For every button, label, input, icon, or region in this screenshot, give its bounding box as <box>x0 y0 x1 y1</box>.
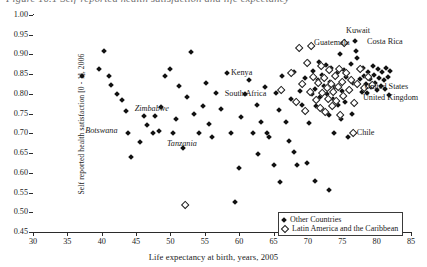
data-point <box>295 44 304 53</box>
data-point <box>201 103 207 109</box>
data-point <box>213 90 219 96</box>
data-point <box>246 77 252 83</box>
x-tick <box>102 232 103 236</box>
data-point <box>236 165 242 171</box>
data-point <box>283 119 289 125</box>
data-point <box>102 48 108 54</box>
data-point <box>232 200 238 206</box>
data-point <box>170 131 176 137</box>
data-point <box>345 134 351 140</box>
legend-row: Other Countries <box>282 215 398 224</box>
y-tick <box>29 74 33 75</box>
data-point <box>349 112 355 118</box>
data-point <box>278 179 284 185</box>
data-point <box>218 106 224 112</box>
x-tick-label: 65 <box>269 238 277 246</box>
data-point <box>370 63 376 69</box>
data-point <box>124 108 130 114</box>
x-tick <box>67 232 68 236</box>
legend-label: Other Countries <box>290 215 341 224</box>
data-point <box>256 151 262 157</box>
data-point <box>291 149 297 155</box>
y-tick-label: 0.90 <box>14 50 28 58</box>
legend: Other CountriesLatin America and the Car… <box>278 212 403 236</box>
y-tick-label: 0.70 <box>14 129 28 137</box>
y-tick <box>29 173 33 174</box>
data-point <box>152 113 158 119</box>
x-tick-label: 60 <box>235 238 243 246</box>
annotation-guatemala: Guatemala <box>314 39 349 47</box>
x-tick <box>136 232 137 236</box>
data-point <box>114 91 120 97</box>
data-point <box>254 102 260 108</box>
data-point <box>120 97 126 103</box>
x-tick-label: 85 <box>407 238 415 246</box>
annotation-chile: Chile <box>357 129 375 137</box>
data-point <box>303 59 312 68</box>
legend-row: Latin America and the Caribbean <box>282 224 398 233</box>
annotation-united-states: United States <box>364 83 408 91</box>
x-tick-label: 70 <box>304 238 312 246</box>
y-tick-label: 0.55 <box>14 188 28 196</box>
data-point <box>206 121 212 127</box>
data-point <box>181 201 190 210</box>
data-point <box>188 50 194 56</box>
y-tick <box>29 94 33 95</box>
x-tick-label: 35 <box>63 238 71 246</box>
data-point <box>348 61 354 67</box>
data-point <box>96 67 102 73</box>
y-tick <box>29 193 33 194</box>
data-point <box>326 187 332 193</box>
y-tick-label: 0.85 <box>14 70 28 78</box>
annotation-zimbabwe: Zimbabwe <box>135 105 169 113</box>
figure-caption: Figure 10.1 Self-reported health satisfa… <box>6 0 421 4</box>
data-point <box>228 131 234 137</box>
y-tick-label: 0.45 <box>14 228 28 236</box>
data-point <box>294 162 300 168</box>
x-tick <box>33 232 34 236</box>
y-tick-label: 0.65 <box>14 149 28 157</box>
data-point <box>137 139 143 145</box>
data-point <box>353 48 359 54</box>
x-tick-label: 50 <box>166 238 174 246</box>
x-tick <box>205 232 206 236</box>
data-point <box>306 120 312 126</box>
x-tick <box>411 232 412 236</box>
data-point <box>337 51 343 57</box>
plot-area: Self reported health satisfaction [0 - 1… <box>33 15 411 232</box>
y-tick-label: 1.00 <box>14 11 28 19</box>
x-tick <box>170 232 171 236</box>
annotation-kuwait: Kuwait <box>346 27 370 35</box>
annotation-south-africa: South Africa <box>225 90 267 98</box>
x-tick-label: 45 <box>132 238 140 246</box>
data-point <box>176 83 182 89</box>
filled-diamond-icon <box>281 217 287 223</box>
data-point <box>224 70 230 76</box>
data-point <box>184 94 190 100</box>
data-point <box>141 113 147 119</box>
y-tick <box>29 35 33 36</box>
data-point <box>109 82 115 88</box>
y-tick <box>29 15 33 16</box>
data-point <box>196 131 202 137</box>
data-point <box>312 178 318 184</box>
data-point <box>352 38 358 44</box>
annotation-united-kingdom: United Kingdom <box>363 94 418 102</box>
y-tick <box>29 54 33 55</box>
data-point <box>144 122 150 128</box>
x-axis-title: Life expectancy at birth, years, 2005 <box>0 252 427 262</box>
y-tick <box>29 133 33 134</box>
data-point <box>209 134 215 140</box>
data-point <box>355 56 361 62</box>
data-point <box>350 98 359 107</box>
annotation-tanzania: Tanzania <box>167 140 197 148</box>
y-tick-label: 0.50 <box>14 208 28 216</box>
data-point <box>203 80 209 86</box>
data-point <box>250 131 256 137</box>
legend-label: Latin America and the Caribbean <box>292 224 398 233</box>
x-tick-label: 75 <box>338 238 346 246</box>
y-tick <box>29 153 33 154</box>
y-tick <box>29 114 33 115</box>
data-point <box>331 131 337 137</box>
data-point <box>191 112 197 118</box>
